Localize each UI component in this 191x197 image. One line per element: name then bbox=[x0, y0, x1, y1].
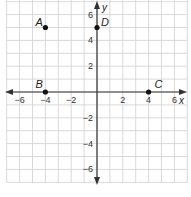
y-tick-label: 2 bbox=[88, 61, 93, 71]
y-tick-label: −6 bbox=[83, 164, 93, 174]
coordinate-plane: x y −6−4−2246642−2−4−6 ABCD bbox=[0, 0, 191, 197]
y-tick-label: 6 bbox=[88, 10, 93, 20]
y-axis-label: y bbox=[101, 2, 108, 13]
x-tick-label: −4 bbox=[40, 95, 50, 105]
y-tick-label: −4 bbox=[83, 139, 93, 149]
y-axis-down-arrow-icon bbox=[94, 177, 100, 185]
point-b bbox=[43, 89, 48, 94]
point-a bbox=[43, 25, 48, 30]
point-label-b: B bbox=[35, 78, 42, 90]
x-tick-label: 6 bbox=[172, 95, 177, 105]
point-c bbox=[146, 89, 151, 94]
y-tick-label: 4 bbox=[88, 35, 93, 45]
point-d bbox=[94, 25, 99, 30]
x-tick-label: −6 bbox=[14, 95, 24, 105]
x-tick-label: −2 bbox=[66, 95, 76, 105]
y-axis-up-arrow-icon bbox=[94, 1, 100, 9]
x-axis-label: x bbox=[178, 95, 185, 106]
x-axis-left-arrow-icon bbox=[5, 89, 13, 95]
x-tick-label: 4 bbox=[146, 95, 151, 105]
point-label-d: D bbox=[101, 16, 109, 28]
point-label-c: C bbox=[155, 78, 163, 90]
point-label-a: A bbox=[34, 16, 42, 28]
x-tick-label: 2 bbox=[120, 95, 125, 105]
y-tick-label: −2 bbox=[83, 113, 93, 123]
